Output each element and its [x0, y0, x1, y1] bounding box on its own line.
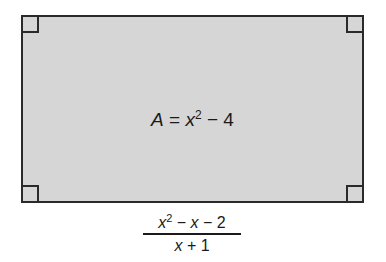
- numerator-exponent: 2: [166, 212, 172, 224]
- equals-sign: =: [169, 109, 180, 130]
- denominator-constant-term: + 1: [187, 237, 210, 254]
- numerator-variable-2: x: [191, 214, 199, 231]
- area-constant-term: − 4: [207, 109, 234, 130]
- area-symbol: A: [151, 109, 164, 130]
- area-variable: x: [185, 109, 195, 130]
- right-angle-marker-bottom-right: [346, 185, 362, 201]
- right-angle-marker-top-right: [346, 17, 362, 33]
- right-angle-marker-top-left: [23, 17, 39, 33]
- fraction-denominator: x + 1: [143, 237, 241, 255]
- right-angle-marker-bottom-left: [23, 185, 39, 201]
- area-expression: A = x2 − 4: [23, 109, 362, 131]
- fraction-bar: [143, 233, 241, 235]
- area-exponent: 2: [195, 108, 202, 122]
- numerator-operator-1: −: [177, 214, 186, 231]
- side-length-expression: x2 − x − 2 x + 1: [143, 214, 241, 255]
- fraction-numerator: x2 − x − 2: [143, 214, 241, 232]
- rectangle-figure: A = x2 − 4: [21, 15, 364, 203]
- numerator-constant-term: − 2: [203, 214, 226, 231]
- denominator-variable: x: [174, 237, 182, 254]
